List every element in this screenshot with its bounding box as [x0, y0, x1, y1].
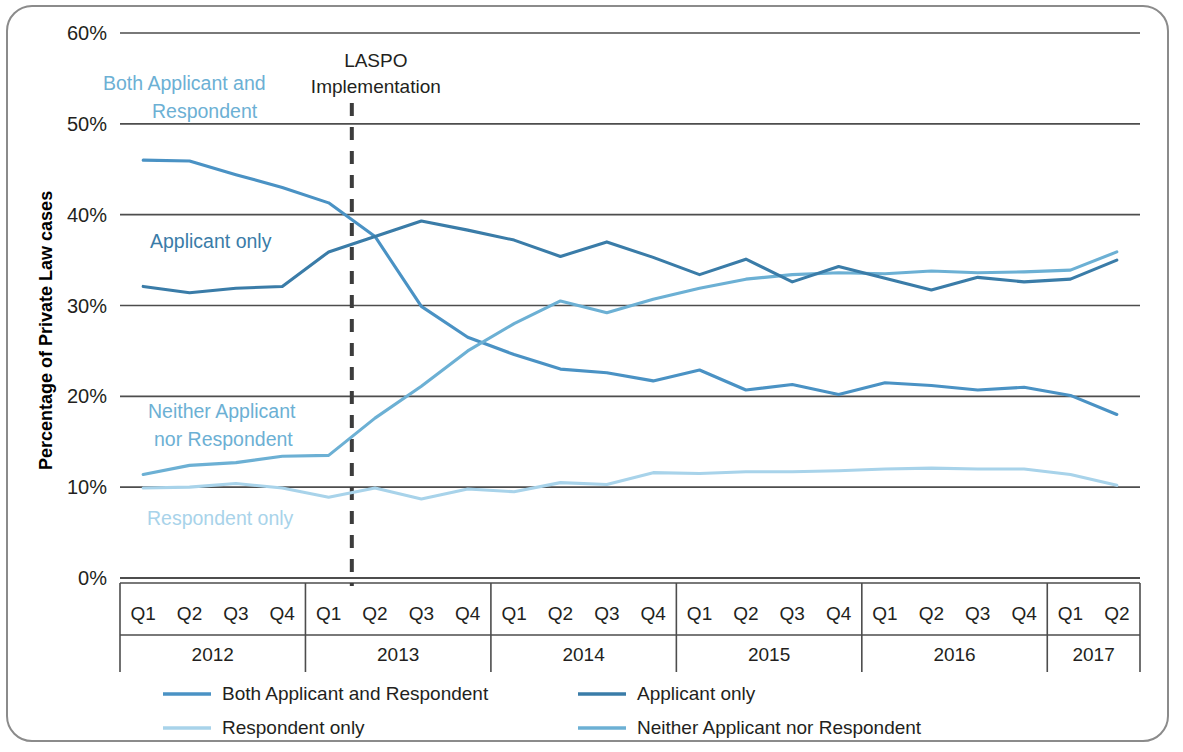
legend-label: Neither Applicant nor Respondent	[637, 717, 922, 738]
chart-legend: Both Applicant and RespondentApplicant o…	[163, 683, 922, 738]
series-line-applicant-only	[143, 221, 1117, 293]
y-tick-label: 60%	[67, 22, 107, 44]
quarter-label: Q3	[965, 603, 990, 624]
quarter-label: Q4	[455, 603, 481, 624]
year-label: 2014	[562, 644, 605, 665]
quarter-label: Q1	[872, 603, 897, 624]
quarter-label: Q2	[919, 603, 944, 624]
x-axis-year-labels: 201220132014201520162017	[192, 644, 1115, 665]
quarter-label: Q3	[223, 603, 248, 624]
quarter-label: Q2	[362, 603, 387, 624]
y-axis-title: Percentage of Private Law cases	[36, 191, 56, 470]
inline-label-neither-line1: Neither Applicant	[148, 400, 296, 422]
quarter-label: Q2	[733, 603, 758, 624]
quarter-label: Q4	[826, 603, 852, 624]
inline-label-neither-line2: nor Respondent	[154, 428, 293, 450]
y-tick-label: 10%	[67, 476, 107, 498]
quarter-label: Q4	[1011, 603, 1037, 624]
legend-label: Respondent only	[222, 717, 365, 738]
laspo-annotation-line1: LASPO	[344, 50, 407, 71]
inline-label-applicant-only: Applicant only	[150, 230, 272, 252]
quarter-label: Q1	[316, 603, 341, 624]
y-axis-tick-labels: 0%10%20%30%40%50%60%	[67, 22, 107, 589]
y-tick-label: 40%	[67, 204, 107, 226]
year-label: 2015	[748, 644, 790, 665]
y-axis-title-text: Percentage of Private Law cases	[36, 191, 56, 470]
legend-label: Both Applicant and Respondent	[222, 683, 489, 704]
laspo-annotation: LASPO Implementation	[311, 50, 441, 586]
x-axis-quarter-labels: Q1Q2Q3Q4Q1Q2Q3Q4Q1Q2Q3Q4Q1Q2Q3Q4Q1Q2Q3Q4…	[131, 603, 1130, 624]
year-label: 2012	[192, 644, 234, 665]
y-tick-label: 0%	[78, 567, 107, 589]
year-label: 2017	[1072, 644, 1114, 665]
y-tick-label: 20%	[67, 385, 107, 407]
series-line-respondent-only	[143, 468, 1117, 499]
inline-label-both-line1: Both Applicant and	[103, 72, 266, 94]
inline-label-respondent-only: Respondent only	[147, 507, 294, 529]
inline-label-both-line2: Respondent	[152, 100, 258, 122]
laspo-annotation-line2: Implementation	[311, 76, 441, 97]
inline-series-labels: Both Applicant and Respondent Applicant …	[103, 72, 296, 529]
y-tick-label: 30%	[67, 295, 107, 317]
quarter-label: Q1	[1058, 603, 1083, 624]
quarter-label: Q4	[270, 603, 296, 624]
quarter-label: Q2	[548, 603, 573, 624]
line-chart: 0%10%20%30%40%50%60% Percentage of Priva…	[0, 0, 1183, 752]
quarter-label: Q1	[131, 603, 156, 624]
chart-figure: 0%10%20%30%40%50%60% Percentage of Priva…	[0, 0, 1183, 752]
quarter-label: Q3	[594, 603, 619, 624]
legend-label: Applicant only	[637, 683, 756, 704]
x-axis-table	[120, 583, 1140, 672]
year-label: 2016	[933, 644, 975, 665]
quarter-label: Q3	[780, 603, 805, 624]
quarter-label: Q3	[409, 603, 434, 624]
quarter-label: Q2	[1104, 603, 1129, 624]
year-label: 2013	[377, 644, 419, 665]
quarter-label: Q4	[641, 603, 667, 624]
quarter-label: Q2	[177, 603, 202, 624]
y-tick-label: 50%	[67, 113, 107, 135]
quarter-label: Q1	[501, 603, 526, 624]
series-line-both-applicant-and-respondent	[143, 160, 1117, 414]
quarter-label: Q1	[687, 603, 712, 624]
